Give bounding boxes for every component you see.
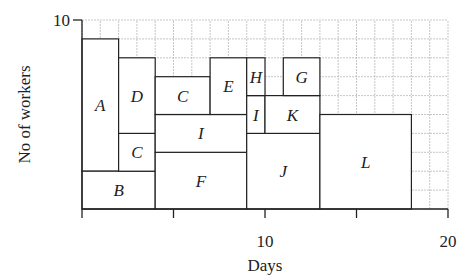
activity-label-L: L bbox=[360, 153, 370, 172]
activity-label-C: C bbox=[177, 87, 189, 106]
x-tick-label-10: 10 bbox=[257, 232, 274, 251]
resource-histogram-chart: ABCDFICEJIHKGL102010DaysNo of workers bbox=[0, 0, 463, 277]
activity-label-D: D bbox=[130, 87, 144, 106]
y-axis-title: No of workers bbox=[15, 65, 34, 163]
x-axis-title: Days bbox=[248, 256, 283, 275]
activity-label-G: G bbox=[295, 68, 307, 87]
activity-label-E: E bbox=[222, 77, 234, 96]
activity-label-H: H bbox=[249, 68, 264, 87]
activity-label-F: F bbox=[195, 172, 207, 191]
activity-label-B: B bbox=[113, 181, 124, 200]
activity-label-C: C bbox=[131, 143, 143, 162]
activity-label-A: A bbox=[94, 96, 106, 115]
y-tick-label-10: 10 bbox=[53, 11, 70, 30]
activity-label-K: K bbox=[286, 106, 300, 125]
x-tick-label-20: 20 bbox=[440, 232, 457, 251]
